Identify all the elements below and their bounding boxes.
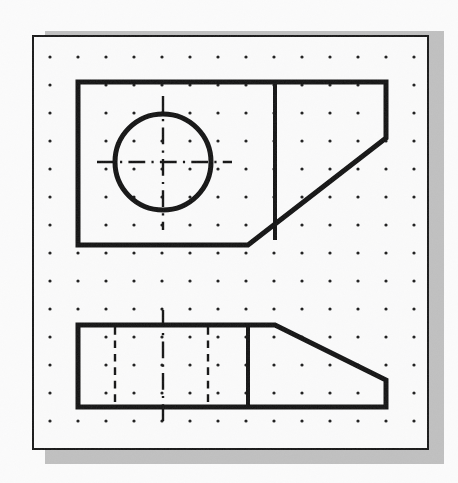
drawing-sheet-frame xyxy=(32,35,429,450)
drawing-page xyxy=(0,0,458,483)
